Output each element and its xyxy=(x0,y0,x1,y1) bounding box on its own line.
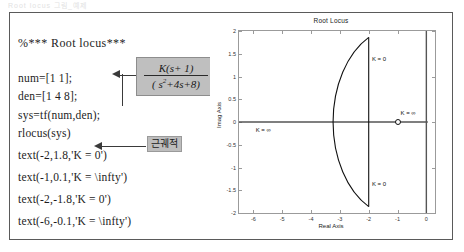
plot-ylabel: Imag Axis xyxy=(216,92,222,138)
annotation-k-zero-upper: K = 0 xyxy=(372,56,386,62)
code-line-text-2: text(-1,0.1,'K = \infty') xyxy=(18,171,127,183)
code-line-text-3: text(-2,-1.8,'K = 0') xyxy=(18,193,111,205)
annotation-k-infinity-zero: K = ∞ xyxy=(401,110,416,116)
annotation-k-infinity-left: K = ∞ xyxy=(256,127,271,133)
ghost-header-text: Root locus 그림_예제 xyxy=(8,0,158,10)
den-pre: ( s xyxy=(152,78,163,90)
annotation-k-zero-lower: K = 0 xyxy=(372,181,386,187)
tf-callout-arrow-line xyxy=(118,75,136,76)
xtick-m5: -5 xyxy=(280,216,285,222)
code-line-comment: %*** Root locus*** xyxy=(18,36,126,51)
xtick-m6: -6 xyxy=(251,216,256,222)
ytick-2: 2 xyxy=(233,28,236,34)
ytick-m1p5: -1.5 xyxy=(227,187,236,193)
xtick-0: 0 xyxy=(425,216,428,222)
plot-title: Root Locus xyxy=(210,17,452,24)
ytick-mark xyxy=(239,213,242,214)
ytick-m1: -1 xyxy=(231,165,236,171)
screenshot-root: Root locus 그림_예제 %*** Root locus*** num=… xyxy=(0,0,464,252)
ytick-1p5: 1.5 xyxy=(228,51,236,57)
den-post: +4s+8) xyxy=(166,78,200,90)
ytick-m2: -2 xyxy=(231,210,236,216)
transfer-function-denominator: ( s2+4s+8) xyxy=(152,76,200,90)
root-locus-plot-pane: Root Locus Imag Axis Real Axis 2 1.5 1 0… xyxy=(210,14,452,238)
ytick-mark-right xyxy=(432,213,435,214)
code-line-text-4: text(-6,-0.1,'K = \infty') xyxy=(18,215,131,227)
ytick-m0p5: -0.5 xyxy=(227,142,236,148)
root-locus-curves xyxy=(239,31,435,213)
xtick-m3: -3 xyxy=(337,216,342,222)
zero-marker-icon xyxy=(395,119,401,125)
code-line-sys: sys=tf(num,den); xyxy=(18,109,100,121)
code-line-num: num=[1 1]; xyxy=(18,72,72,84)
xtick-m2: -2 xyxy=(366,216,371,222)
code-listing-pane: %*** Root locus*** num=[1 1]; den=[1 4 8… xyxy=(10,14,206,238)
korean-callout-arrow-line xyxy=(100,146,146,147)
transfer-function-callout: K(s+ 1) ( s2+4s+8) xyxy=(136,57,216,96)
code-line-text-1: text(-2,1.8,'K = 0') xyxy=(18,149,107,161)
transfer-function-numerator: K(s+ 1) xyxy=(159,63,194,75)
xtick-m4: -4 xyxy=(309,216,314,222)
code-line-den: den=[1 4 8]; xyxy=(18,90,77,102)
tf-callout-arrow-head-icon xyxy=(112,70,120,78)
korean-annotation-label: 근궤적 xyxy=(147,136,182,152)
ytick-1: 1 xyxy=(233,74,236,80)
korean-callout-arrow-head-icon xyxy=(94,142,102,150)
code-line-rlocus: rlocus(sys) xyxy=(18,127,71,139)
xtick-m1: -1 xyxy=(395,216,400,222)
ytick-0: 0 xyxy=(233,119,236,125)
plot-xlabel: Real Axis xyxy=(210,223,452,229)
plot-axes: 2 1.5 1 0.5 0 -0.5 -1 -1.5 -2 -6 xyxy=(238,30,436,214)
code-group-tick xyxy=(122,74,123,106)
ytick-0p5: 0.5 xyxy=(228,96,236,102)
